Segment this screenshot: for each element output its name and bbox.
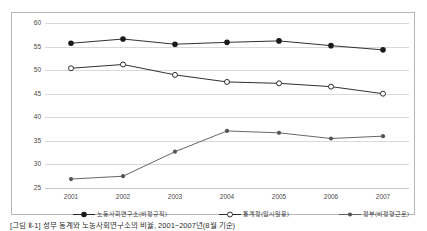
data-point-filled	[68, 40, 74, 46]
y-tick-label: 45	[34, 90, 41, 97]
figure-container: 2530354045505560 20012002200320042005200…	[0, 0, 427, 231]
data-point-filled	[328, 43, 334, 49]
series-line	[71, 131, 383, 179]
legend-label: 통계청(임시일용)	[243, 211, 289, 217]
data-point-small	[277, 131, 281, 135]
x-tick-label: 2002	[116, 194, 130, 201]
x-tick-label: 2004	[220, 194, 234, 201]
data-point-small	[121, 174, 125, 178]
figure-caption: [그림 Ⅱ-1] 정부 통계와 노동사회연구소의 비율, 2001~2007년(…	[10, 222, 420, 230]
y-tick-label: 30	[34, 161, 41, 168]
data-point-open	[173, 72, 178, 77]
chart-frame: 2530354045505560 20012002200320042005200…	[11, 12, 415, 215]
data-point-filled	[380, 47, 386, 53]
legend-item: 정부(비정형근로)	[339, 210, 409, 219]
data-point-small	[381, 134, 385, 138]
data-point-open	[121, 62, 126, 67]
series-layer	[45, 23, 409, 188]
data-point-open	[225, 79, 230, 84]
legend-item: 통계청(임시일용)	[219, 210, 289, 219]
data-point-filled	[224, 40, 230, 46]
legend-marker-icon	[219, 210, 241, 219]
data-point-open	[329, 84, 334, 89]
data-point-filled	[120, 36, 126, 42]
data-point-open	[277, 81, 282, 86]
chart-legend: 노동사회연구소(비정규직)통계청(임시일용)정부(비정형근로)	[45, 208, 409, 220]
data-point-filled	[276, 38, 282, 44]
data-point-small	[225, 129, 229, 133]
data-point-small	[329, 136, 333, 140]
series-group	[69, 129, 385, 181]
legend-marker-icon	[339, 210, 361, 219]
data-point-open	[381, 91, 386, 96]
x-tick-label: 2007	[376, 194, 390, 201]
y-tick-label: 35	[34, 138, 41, 145]
y-tick-label: 60	[34, 20, 41, 27]
x-axis-ticks: 2001200220032004200520062007	[45, 194, 409, 204]
y-tick-label: 40	[34, 114, 41, 121]
data-point-small	[173, 150, 177, 154]
y-tick-label: 50	[34, 67, 41, 74]
legend-item: 노동사회연구소(비정규직)	[73, 210, 167, 219]
series-group	[68, 36, 386, 52]
data-point-small	[69, 177, 73, 181]
legend-label: 정부(비정형근로)	[363, 211, 409, 217]
data-point-filled	[172, 41, 178, 47]
plot-area: 2530354045505560	[45, 23, 409, 188]
legend-marker-icon	[73, 210, 95, 219]
data-point-open	[69, 66, 74, 71]
x-tick-label: 2003	[168, 194, 182, 201]
series-group	[69, 62, 386, 96]
y-tick-label: 55	[34, 43, 41, 50]
x-tick-label: 2001	[64, 194, 78, 201]
x-axis-line	[45, 188, 409, 189]
x-tick-label: 2005	[272, 194, 286, 201]
y-tick-label: 25	[34, 185, 41, 192]
x-tick-label: 2006	[324, 194, 338, 201]
legend-label: 노동사회연구소(비정규직)	[97, 211, 167, 217]
